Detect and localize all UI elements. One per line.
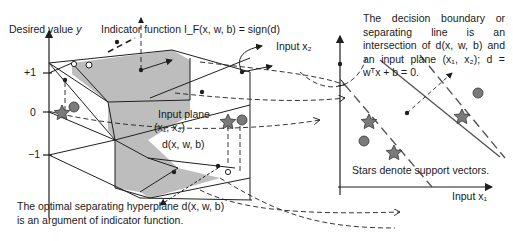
note-line-2: separating line is an — [363, 26, 505, 40]
indicator-function-label: Indicator function I_F(x, w, b) = sign(d… — [101, 23, 280, 36]
decision-boundary-note: The decision boundary or separating line… — [363, 12, 505, 80]
note-line-3: intersection of d(x, w, b) and — [363, 39, 505, 53]
input-x2-label: Input x₂ — [276, 40, 312, 53]
tick-minus-1: −1 — [28, 148, 40, 161]
support-vectors-note: Stars denote support vectors. — [352, 164, 489, 177]
circle-marker — [473, 88, 483, 98]
caption-line-1: The optimal separating hyperplane d(x, w… — [17, 200, 297, 214]
indicator-surface-shading — [72, 50, 220, 198]
tick-zero: 0 — [30, 106, 36, 119]
boundary-dot — [405, 111, 409, 115]
circle-marker — [359, 136, 369, 146]
circle-marker — [69, 102, 79, 112]
note-line-4: an input plane (x₁, x₂); d = — [363, 53, 505, 67]
hyperplane-label: d(x, w, b) — [162, 138, 205, 151]
star-icon — [386, 145, 402, 160]
note-line-1: The decision boundary or — [363, 12, 505, 26]
bottom-caption: The optimal separating hyperplane d(x, w… — [17, 200, 297, 227]
tick-plus-1: +1 — [24, 66, 36, 79]
y-axis-label: Desired value y — [9, 23, 81, 36]
y-axis — [43, 31, 52, 218]
circle-marker — [237, 115, 247, 125]
indicator-label-prefix: Indicator function — [101, 23, 181, 35]
caption-line-2: is an argument of indicator function. — [17, 214, 297, 228]
input-plane-label: Input plane — [158, 108, 210, 121]
y-axis-label-text: Desired value — [9, 23, 73, 35]
note-line-5: wᵀx + b = 0. — [363, 66, 505, 80]
input-plane-coords: (x₁, x₂) — [154, 121, 185, 134]
star-icon — [361, 114, 377, 129]
y-axis-var: y — [76, 23, 81, 35]
indicator-formula: I_F(x, w, b) = sign(d) — [184, 23, 280, 35]
axis-dot — [338, 62, 342, 66]
input-x1-label: Input x₁ — [452, 190, 487, 203]
